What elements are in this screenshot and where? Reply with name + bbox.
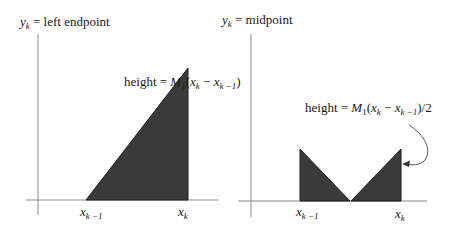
right-tick-x-k: xk bbox=[394, 206, 406, 223]
riemann-error-diagram: yk = left endpoint height = M1(xk − xk −… bbox=[0, 0, 449, 236]
midpoint-error-right-triangle bbox=[351, 149, 401, 201]
curved-arrow-icon bbox=[402, 125, 428, 167]
right-panel-title: yk = midpoint bbox=[220, 12, 293, 29]
right-panel: yk = midpoint height = M1(xk − xk −1)/2 … bbox=[220, 12, 432, 223]
right-tick-x-k-minus-1: xk −1 bbox=[295, 204, 319, 221]
left-panel: yk = left endpoint height = M1(xk − xk −… bbox=[18, 14, 241, 221]
right-height-label: height = M1(xk − xk −1)/2 bbox=[305, 100, 432, 117]
left-tick-x-k: xk bbox=[177, 204, 189, 221]
left-panel-title: yk = left endpoint bbox=[18, 14, 110, 31]
left-tick-x-k-minus-1: xk −1 bbox=[79, 204, 103, 221]
midpoint-error-left-triangle bbox=[300, 149, 350, 201]
